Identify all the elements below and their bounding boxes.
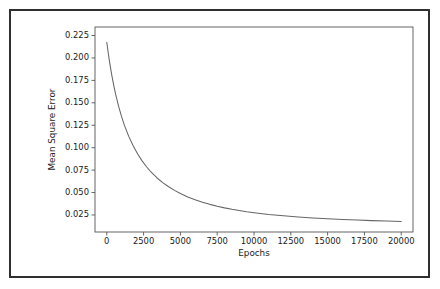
x-tick-label: 10000 (241, 236, 268, 246)
x-axis-title: Epochs (238, 248, 270, 258)
y-tick-label: 0.100 (65, 142, 89, 152)
y-tick-label: 0.025 (65, 209, 89, 219)
y-tick-label: 0.200 (65, 52, 89, 62)
x-tick-label: 15000 (314, 236, 341, 246)
y-tick-label: 0.125 (65, 120, 89, 130)
x-tick-label: 5000 (170, 236, 191, 246)
chart-figure: 0.0250.0500.0750.1000.1250.1500.1750.200… (11, 11, 428, 276)
x-tick-label: 7500 (207, 236, 228, 246)
y-tick-label: 0.075 (65, 165, 89, 175)
y-tick-label: 0.150 (65, 97, 89, 107)
x-tick-label: 17500 (351, 236, 378, 246)
plot-axes-box (95, 27, 413, 232)
y-tick-label: 0.225 (65, 30, 89, 40)
x-tick-label: 2500 (133, 236, 154, 246)
x-tick-label: 12500 (277, 236, 304, 246)
x-tick-label: 20000 (388, 236, 415, 246)
y-tick-label: 0.175 (65, 75, 89, 85)
y-tick-label: 0.050 (65, 187, 89, 197)
x-tick-label: 0 (104, 236, 109, 246)
figure-frame: 0.0250.0500.0750.1000.1250.1500.1750.200… (9, 9, 430, 278)
series-line-mean-square-error (107, 42, 401, 221)
mse-line-chart: 0.0250.0500.0750.1000.1250.1500.1750.200… (11, 11, 428, 276)
y-axis-title: Mean Square Error (47, 88, 57, 170)
